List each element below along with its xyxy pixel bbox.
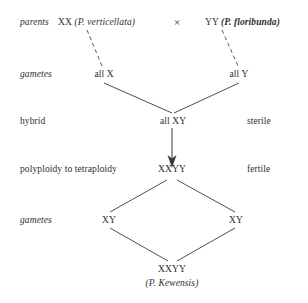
parent-right-species: (P. floribunda) [221,17,280,27]
line-gamete-left-to-offspring [110,228,168,261]
parent-left-species: (P. verticellata) [74,17,135,27]
stage-label-parents: parents [20,18,49,28]
dashed-line-parent-right-to-gamete [222,30,238,66]
stage-label-gametes-first: gametes [20,70,52,80]
gamete-left-second: XY [102,216,116,226]
tetraploid-fertility-status: fertile [247,165,270,175]
offspring-genotype: XXYY [158,265,186,275]
line-gamete-right-to-hybrid [174,83,239,113]
parent-left-genotype: XX (P. verticellata) [58,18,135,28]
tetraploid-genotype: XXYY [158,165,186,175]
cross-symbol: × [174,17,180,28]
diagram-connector-lines [0,0,308,303]
stage-label-polyploidy: polyploidy to tetraploidy [20,165,117,175]
hybrid-fertility-status: sterile [247,117,271,127]
gamete-left-first: all X [94,70,113,80]
hybrid-genotype: all XY [160,117,186,127]
stage-label-gametes-second: gametes [20,216,52,226]
stage-label-hybrid: hybrid [20,117,45,127]
offspring-species: (P. Kewensis) [146,279,199,289]
line-tetraploid-to-gamete-left [110,180,167,212]
gamete-right-second: XY [229,216,243,226]
dashed-line-parent-left-to-gamete [87,30,102,66]
gamete-right-first: all Y [230,70,249,80]
line-gamete-right-to-offspring [177,228,235,261]
parent-left-genotype-text: XX [58,17,72,27]
line-tetraploid-to-gamete-right [177,180,235,212]
line-gamete-left-to-hybrid [104,83,172,113]
genetics-cross-diagram: parents XX (P. verticellata) × YY (P. fl… [0,0,308,303]
parent-right-genotype: YY (P. floribunda) [205,18,280,28]
parent-right-genotype-text: YY [205,17,219,27]
